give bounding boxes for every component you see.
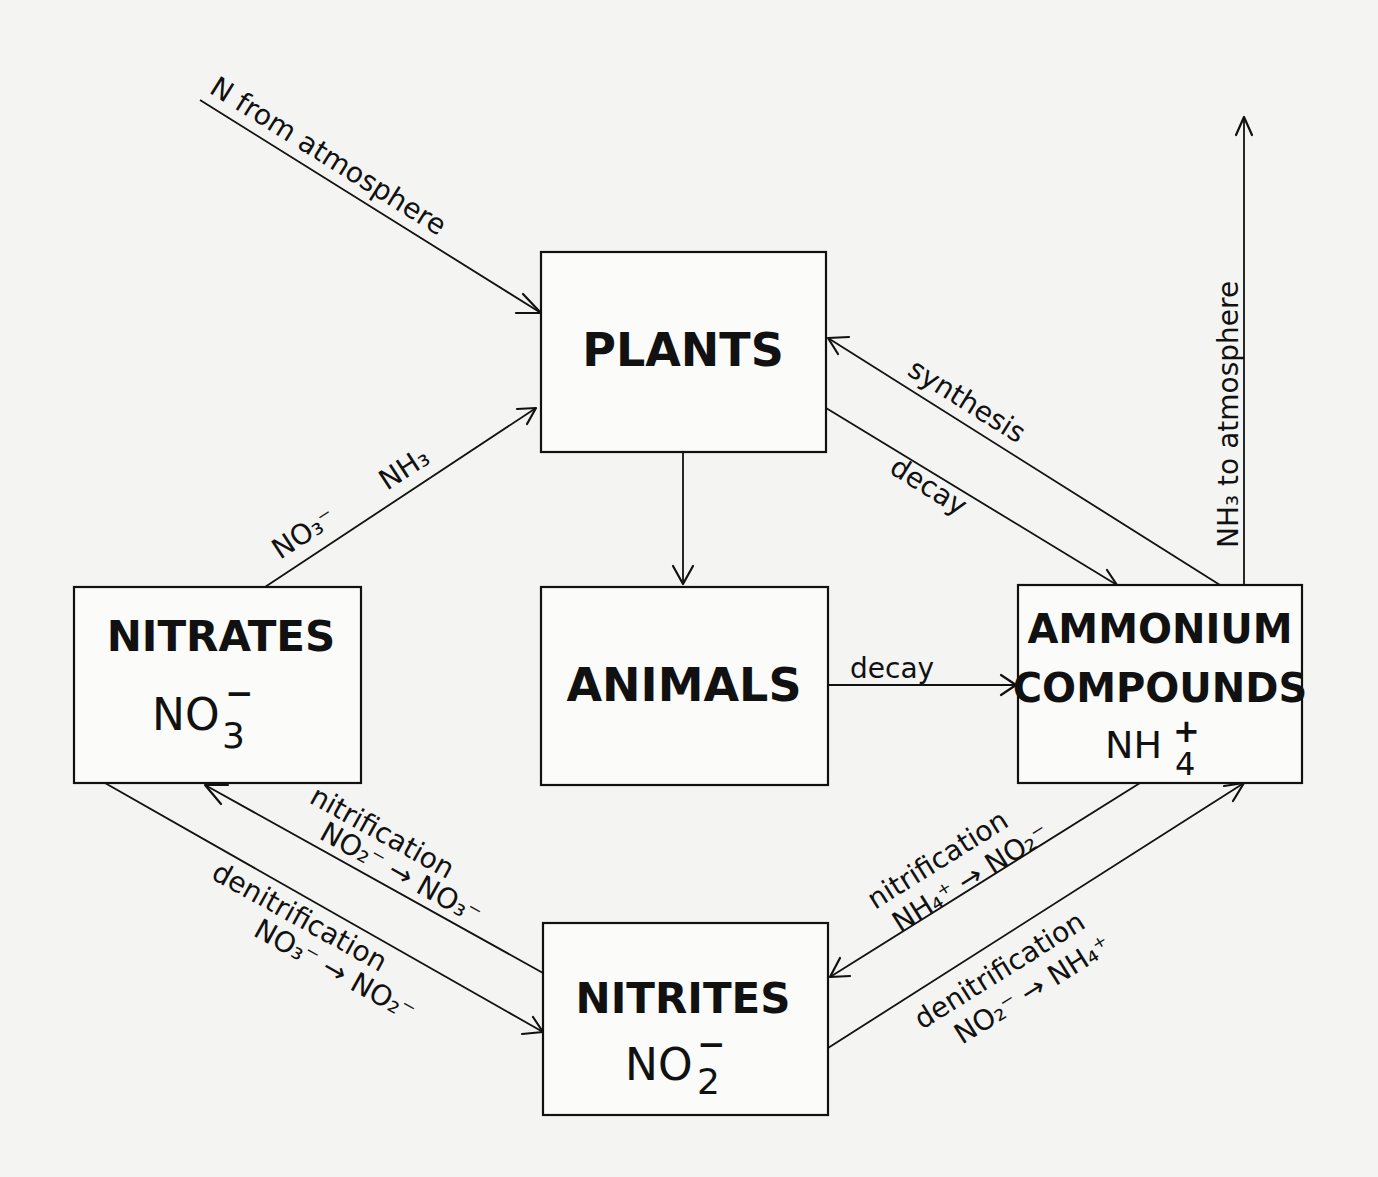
plants-title: PLANTS — [582, 323, 784, 377]
nitrites-title: NITRITES — [576, 974, 791, 1023]
animals-decay-label: decay — [850, 652, 934, 685]
edge-ammonium-to-plants: synthesis — [828, 337, 1220, 585]
synthesis-label: synthesis — [902, 352, 1031, 450]
ammonium-title-line2: COMPOUNDS — [1013, 665, 1307, 711]
node-nitrates: NITRATES NO − 3 — [74, 587, 361, 783]
node-ammonium: AMMONIUM COMPOUNDS NH + 4 — [1013, 585, 1307, 783]
node-animals: ANIMALS — [541, 587, 828, 785]
atmosphere-label: N from atmosphere — [204, 70, 452, 242]
edge-plants-to-animals — [673, 452, 693, 584]
nitrates-formula: NO — [152, 689, 220, 740]
nh3-to-atmosphere-label: NH₃ to atmosphere — [1212, 281, 1245, 548]
edge-plants-to-ammonium: decay — [826, 408, 1117, 585]
arrowhead-icon — [205, 785, 228, 804]
ammonium-title-line1: AMMONIUM — [1027, 606, 1292, 652]
ammonium-formula-base: NH — [1105, 723, 1162, 767]
nitrites-formula-base: NO — [625, 1039, 693, 1090]
edge-nitrates-to-plants: NO₃⁻ NH₃ — [265, 408, 536, 587]
nitrates-title: NITRATES — [107, 612, 336, 661]
node-plants: PLANTS — [541, 252, 826, 452]
nitrites-formula-sub: 2 — [697, 1061, 720, 1102]
animals-title: ANIMALS — [566, 658, 801, 712]
nitrogen-cycle-diagram: PLANTS ANIMALS NITRATES NO − 3 AMMONIUM … — [0, 0, 1378, 1177]
nitrates-formula-sub: 3 — [222, 715, 245, 756]
edge-animals-to-ammonium: decay — [828, 652, 1016, 695]
edge-ammonium-to-atmosphere: NH₃ to atmosphere — [1212, 117, 1252, 585]
arrowhead-icon — [516, 294, 541, 313]
nitrates-formula-sup: − — [225, 673, 254, 713]
nitrates-plants-label-a: NO₃⁻ — [266, 501, 342, 566]
edge-atmosphere-to-plants: N from atmosphere — [200, 70, 541, 313]
nitrates-formula-base: NO — [152, 689, 220, 740]
node-nitrites: NITRITES NO − 2 — [543, 923, 828, 1115]
plants-decay-label: decay — [884, 450, 973, 523]
ammonium-formula-sub: 4 — [1175, 745, 1195, 783]
nitrates-plants-label-b: NH₃ — [373, 440, 436, 497]
nitrites-formula-sup: − — [697, 1024, 726, 1064]
